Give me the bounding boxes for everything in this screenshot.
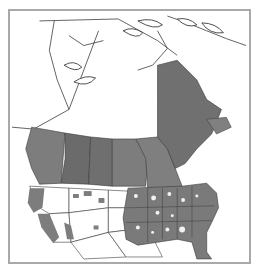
map-frame: North America species range map: [8, 9, 251, 264]
canada-range: [26, 60, 232, 194]
range-map: [10, 11, 249, 262]
arctic-islands: [64, 19, 223, 85]
